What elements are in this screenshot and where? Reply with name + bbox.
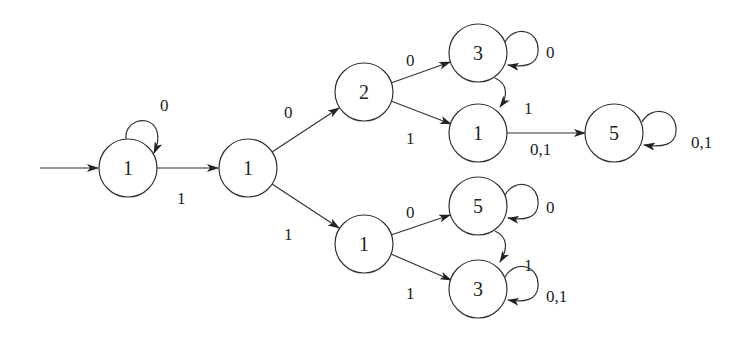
state-label-I: 3 [473, 278, 483, 300]
state-label-G: 1 [359, 233, 369, 255]
edge-B-C [272, 108, 339, 152]
state-A: 1 [99, 139, 157, 197]
edge-H-I [495, 231, 505, 262]
state-label-H: 5 [473, 195, 483, 217]
edge-G-I [391, 254, 451, 280]
edge-label-D-E: 1 [524, 99, 533, 118]
state-label-B: 1 [243, 157, 253, 179]
edge-label-F-F: 0,1 [691, 133, 712, 152]
state-label-E: 1 [473, 122, 483, 144]
edge-G-H [391, 215, 450, 235]
state-C: 2 [335, 63, 393, 121]
edge-H-H [505, 184, 538, 219]
edge-label-G-I: 1 [406, 284, 415, 303]
edge-label-B-C: 0 [284, 103, 293, 122]
state-label-C: 2 [359, 81, 369, 103]
edge-label-C-E: 1 [406, 129, 415, 148]
state-H: 5 [449, 177, 507, 235]
edge-C-E [391, 101, 451, 124]
state-D: 3 [449, 24, 507, 82]
edge-label-C-D: 0 [406, 51, 415, 70]
edge-F-F [642, 111, 676, 146]
state-G: 1 [335, 215, 393, 273]
edge-B-G [272, 184, 339, 228]
edge-label-A-A: 0 [160, 96, 169, 115]
state-I: 3 [449, 260, 507, 318]
state-F: 5 [585, 104, 643, 162]
edge-label-B-G: 1 [284, 225, 293, 244]
state-label-D: 3 [473, 42, 483, 64]
edge-label-E-F: 0,1 [530, 140, 551, 159]
edge-label-D-D: 0 [546, 43, 555, 62]
state-label-F: 5 [609, 122, 619, 144]
edge-D-E [495, 78, 505, 107]
edge-C-D [391, 62, 450, 83]
state-diagram: 0 1 0 1 0 1 0 1 0,1 0,1 0 1 0 1 0,1 1 1 [0, 0, 748, 339]
edge-label-H-I: 1 [524, 256, 533, 275]
edge-label-G-H: 0 [406, 203, 415, 222]
state-B: 1 [219, 139, 277, 197]
edge-label-I-I: 0,1 [546, 287, 567, 306]
edge-label-A-B: 1 [177, 189, 186, 208]
edge-I-I [505, 266, 538, 301]
edge-D-D [505, 31, 538, 66]
state-label-A: 1 [123, 157, 133, 179]
edge-label-H-H: 0 [546, 198, 555, 217]
state-E: 1 [449, 104, 507, 162]
